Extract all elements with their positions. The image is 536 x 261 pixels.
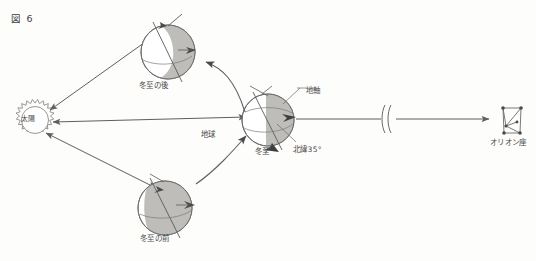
label-winter-solstice: 冬至 <box>255 145 270 156</box>
orion-star-saiph <box>502 131 506 135</box>
earth-solstice-axis-tick <box>262 86 272 94</box>
earth-to-orion-sightline <box>296 105 489 133</box>
earth-before-shadow <box>144 181 196 236</box>
orbit-arrow-upper <box>206 62 245 112</box>
orion-constellation <box>501 106 523 135</box>
figure-diagram: 図 6 <box>0 0 536 261</box>
orion-star-rigel <box>518 131 522 135</box>
orion-star-belt-left <box>504 124 507 127</box>
orion-star-belt-right <box>516 121 519 124</box>
orion-star-bellatrix <box>519 106 523 110</box>
label-orion: オリオン座 <box>490 136 527 147</box>
label-sun: 太陽 <box>21 113 36 123</box>
label-earth: 地球 <box>201 128 216 139</box>
earth-after-axis-tip <box>168 14 182 26</box>
orion-edge-right <box>520 108 521 133</box>
earth-axis-leader-line <box>283 88 300 104</box>
earth-before-axis-tip <box>150 174 164 182</box>
label-earth-axis: 地軸 <box>306 84 321 95</box>
connector-sun-to-earth-solstice <box>53 117 246 122</box>
earth-after-group <box>141 14 200 82</box>
connector-sun-to-earth-before <box>46 133 156 188</box>
orbit-arrows <box>196 62 246 184</box>
label-before-winter-solstice: 冬至の前 <box>140 232 169 243</box>
break-mark-icon <box>382 105 391 133</box>
label-after-winter-solstice: 冬至の後 <box>139 79 168 90</box>
label-latitude-35n: 北緯35° <box>293 143 322 154</box>
orion-star-betelgeuse <box>501 106 505 110</box>
orion-hourglass-outline <box>503 108 521 133</box>
diagram-canvas <box>0 0 536 261</box>
orbit-arrow-lower <box>196 136 246 184</box>
